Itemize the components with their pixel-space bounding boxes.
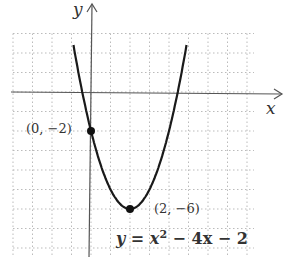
eq-rest: − 4x − 2 [167,229,248,248]
eq-sign: = [125,229,150,248]
point-label-vertex: (2, −6) [154,201,200,216]
eq-x: x [150,229,160,248]
y-axis-label: y [73,0,83,19]
eq-exponent: 2 [159,228,167,241]
grid [13,34,254,257]
equation-label: y = x2 − 4x − 2 [116,228,248,248]
point-vertex [126,205,134,213]
x-axis-label: x [266,98,276,118]
parabola-graph: y x (0, −2) (2, −6) y = x2 − 4x − 2 [0,0,286,257]
point-y-intercept [87,127,95,135]
eq-lhs: y [116,229,125,248]
point-label-y-intercept: (0, −2) [26,121,72,136]
